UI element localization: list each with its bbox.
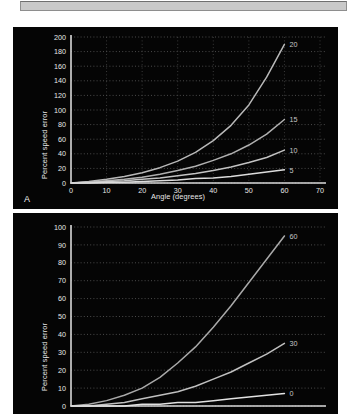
x-tick-label: 70 (316, 186, 324, 195)
y-tick-label: 50 (58, 312, 66, 321)
x-tick-label: 20 (138, 186, 146, 195)
x-tick-label: 40 (209, 186, 217, 195)
series-label-60: 60 (289, 232, 297, 241)
y-tick-label: 140 (54, 76, 66, 85)
y-tick-label: 80 (58, 120, 66, 129)
series-label-20: 20 (289, 40, 297, 49)
y-tick-label: 40 (58, 149, 66, 158)
x-tick-label: 60 (280, 186, 288, 195)
y-tick-label: 70 (58, 276, 66, 285)
series-label-30: 30 (289, 339, 297, 348)
series-label-15: 15 (289, 115, 297, 124)
chart-b-y-axis-label: Percent speed error (40, 323, 49, 391)
y-tick-label: 10 (58, 384, 66, 393)
series-label-0: 0 (289, 389, 293, 398)
chart-a-plot: 0204060801001201401601802000102030405060… (13, 27, 338, 209)
panel-a-letter: A (24, 194, 30, 204)
y-tick-label: 200 (54, 33, 66, 42)
y-tick-label: 20 (58, 164, 66, 173)
x-tick-label: 10 (103, 186, 111, 195)
y-tick-label: 160 (54, 62, 66, 71)
toolbar-bar (20, 1, 347, 11)
series-label-5: 5 (289, 166, 293, 175)
y-tick-label: 80 (58, 258, 66, 267)
x-tick-label: 0 (69, 186, 73, 195)
y-tick-label: 20 (58, 366, 66, 375)
document-toolbar (0, 0, 351, 12)
chart-a-x-axis-label: Angle (degrees) (151, 192, 205, 201)
panel-a: 0204060801001201401601802000102030405060… (13, 27, 338, 209)
y-tick-label: 100 (54, 223, 66, 232)
series-line-60 (71, 236, 284, 406)
chart-b-svg: 010203040506070809010060300 (13, 213, 338, 414)
y-tick-label: 40 (58, 330, 66, 339)
y-tick-label: 120 (54, 91, 66, 100)
y-tick-label: 60 (58, 294, 66, 303)
x-tick-label: 50 (245, 186, 253, 195)
y-tick-label: 100 (54, 106, 66, 115)
series-label-10: 10 (289, 146, 297, 155)
y-tick-label: 60 (58, 135, 66, 144)
chart-a-y-axis-label: Percent speed error (40, 111, 49, 179)
chart-b-plot: 010203040506070809010060300 (13, 213, 338, 414)
panel-b: 010203040506070809010060300 Percent spee… (13, 213, 338, 414)
y-tick-label: 30 (58, 348, 66, 357)
y-tick-label: 180 (54, 47, 66, 56)
y-tick-label: 0 (62, 179, 66, 188)
y-tick-label: 90 (58, 241, 66, 250)
chart-a-svg: 0204060801001201401601802000102030405060… (13, 27, 338, 209)
y-tick-label: 0 (62, 402, 66, 411)
